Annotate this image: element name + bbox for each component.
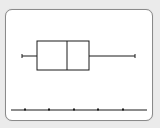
tick-mark [97, 109, 99, 111]
tick-mark [73, 109, 75, 111]
tick-mark [122, 109, 124, 111]
tick-mark [48, 109, 50, 111]
interquartile-box [37, 41, 89, 70]
box-plot [0, 0, 160, 128]
tick-mark [24, 109, 26, 111]
